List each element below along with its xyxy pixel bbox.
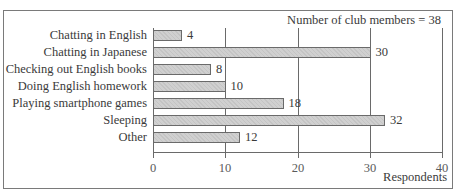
bar-row: Other 12 [0, 130, 457, 145]
x-tick-label: 10 [219, 161, 232, 176]
bar [153, 115, 385, 126]
bar [153, 132, 240, 143]
bar [153, 64, 211, 75]
x-tick-label: 20 [292, 161, 305, 176]
category-label: Chatting in English [50, 28, 147, 43]
value-label: 32 [390, 113, 403, 128]
value-label: 10 [231, 79, 244, 94]
category-label: Sleeping [103, 113, 147, 128]
bar [153, 81, 226, 92]
category-label: Doing English homework [18, 79, 147, 94]
category-label: Playing smartphone games [12, 96, 147, 111]
x-axis-title: Respondents [383, 170, 447, 185]
x-tick-label: 0 [150, 161, 156, 176]
x-tick-label: 30 [364, 161, 377, 176]
category-label: Checking out English books [6, 62, 147, 77]
plot-area: Chatting in English 4 Chatting in Japane… [153, 28, 443, 158]
value-label: 8 [216, 62, 222, 77]
bar-row: Playing smartphone games 18 [0, 96, 457, 111]
value-label: 4 [187, 28, 193, 43]
bar-row: Checking out English books 8 [0, 62, 457, 77]
bar [153, 98, 284, 109]
value-label: 30 [376, 45, 389, 60]
category-label: Chatting in Japanese [44, 45, 147, 60]
bar [153, 30, 182, 41]
bar-row: Doing English homework 10 [0, 79, 457, 94]
value-label: 18 [289, 96, 302, 111]
chart-annotation: Number of club members = 38 [287, 13, 441, 28]
bar [153, 47, 371, 58]
bar-row: Chatting in Japanese 30 [0, 45, 457, 60]
bar-row: Chatting in English 4 [0, 28, 457, 43]
value-label: 12 [245, 130, 258, 145]
category-label: Other [119, 130, 147, 145]
bar-row: Sleeping 32 [0, 113, 457, 128]
